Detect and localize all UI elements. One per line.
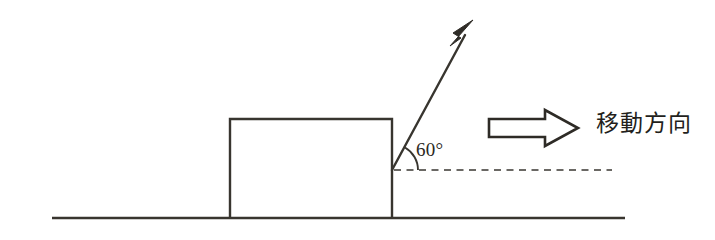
physics-diagram-figure: 60° 移動方向 <box>0 0 715 240</box>
movement-direction-block-arrow <box>489 110 578 146</box>
angle-label: 60° <box>416 139 443 161</box>
movement-direction-label: 移動方向 <box>596 104 692 138</box>
block-box <box>230 119 392 218</box>
